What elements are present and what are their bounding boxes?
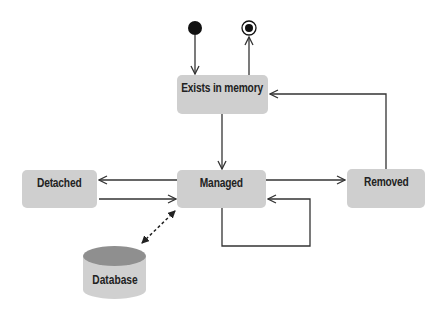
- state-removed: Removed: [347, 169, 425, 208]
- database-connection: [142, 211, 175, 243]
- diagram-canvas: [0, 0, 443, 315]
- state-label: Managed: [200, 176, 243, 190]
- transition-removed-exists: [270, 94, 386, 169]
- state-managed: Managed: [177, 170, 266, 208]
- state-label: Detached: [37, 176, 82, 190]
- state-detached: Detached: [22, 170, 97, 208]
- state-label: Removed: [364, 175, 409, 189]
- state-label: Exists in memory: [182, 81, 264, 95]
- database-label: Database: [92, 273, 138, 287]
- state-exists-in-memory: Exists in memory: [177, 75, 268, 114]
- initial-state-icon: [188, 21, 202, 35]
